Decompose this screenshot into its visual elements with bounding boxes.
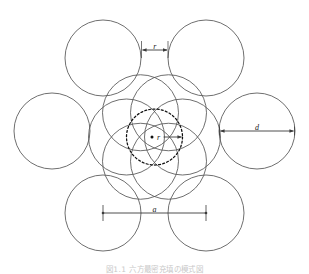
figure-container: r r d a 図1.1 六方最密充填の模式図 [0,0,309,274]
figure-caption: 図1.1 六方最密充填の模式図 [0,265,309,274]
spacing-a-right-dot [205,212,208,215]
packing-diagram: r r d a [0,0,309,274]
spacing-a-left-dot [102,212,105,215]
spacing-a-label: a [153,205,157,214]
figure-background [0,0,309,274]
center-dot [151,136,154,139]
